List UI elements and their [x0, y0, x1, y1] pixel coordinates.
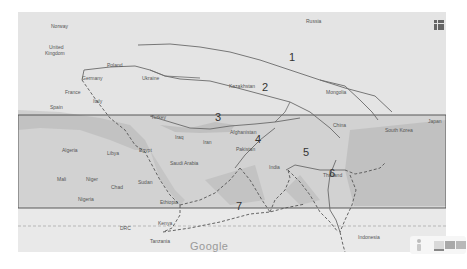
country-label: Mongolia: [326, 90, 346, 95]
country-label: Turkey: [151, 115, 166, 120]
country-label: Indonesia: [358, 235, 380, 240]
layer-map-button[interactable]: [434, 241, 444, 251]
country-label: China: [333, 123, 346, 128]
country-label: Japan: [428, 119, 442, 124]
country-label: Libya: [107, 151, 119, 156]
country-label: Germany: [82, 76, 103, 81]
route-number-label: 7: [236, 201, 242, 212]
country-label: Italy: [93, 99, 102, 104]
country-label: France: [65, 90, 81, 95]
route-number-label: 6: [329, 168, 335, 179]
country-label: Kazakhstan: [229, 84, 255, 89]
country-label: Tanzania: [150, 239, 170, 244]
country-label: Iraq: [175, 135, 184, 140]
country-label: Poland: [107, 63, 123, 68]
country-label: Egypt: [139, 148, 152, 153]
country-label: Kenya: [158, 221, 172, 226]
country-label: Ethiopia: [160, 200, 178, 205]
country-label: Pakistan: [236, 147, 255, 152]
route-number-label: 4: [255, 134, 261, 145]
country-label: Spain: [50, 105, 63, 110]
apps-grid-icon[interactable]: [434, 20, 444, 30]
country-label: Ukraine: [142, 76, 159, 81]
google-logo: Google: [190, 240, 228, 252]
country-label: South Korea: [385, 128, 413, 133]
country-label: Kingdom: [45, 51, 65, 56]
route-number-label: 2: [262, 82, 268, 93]
country-label: DRC: [120, 226, 131, 231]
country-label: Sudan: [138, 180, 152, 185]
country-label: Norway: [51, 24, 68, 29]
country-label: Iran: [203, 140, 212, 145]
country-label: India: [269, 165, 280, 170]
country-label: Chad: [111, 185, 123, 190]
layer-terrain-button[interactable]: [456, 241, 466, 249]
layer-satellite-button[interactable]: [445, 241, 455, 249]
country-label: Afghanistan: [230, 130, 256, 135]
route-number-label: 3: [215, 112, 221, 123]
map-controls: [410, 236, 466, 254]
country-label: Saudi Arabia: [170, 161, 198, 166]
country-label: Mali: [57, 177, 66, 182]
country-label: Algeria: [62, 148, 78, 153]
pegman-icon[interactable]: [417, 239, 421, 250]
country-label: Nigeria: [78, 197, 94, 202]
route-number-label: 1: [289, 52, 295, 63]
country-label: Russia: [306, 19, 321, 24]
map-viewport[interactable]: NorwayRussiaUnitedKingdomPolandGermanyUk…: [18, 12, 446, 252]
route-number-label: 5: [303, 147, 309, 158]
country-label: Niger: [86, 177, 98, 182]
